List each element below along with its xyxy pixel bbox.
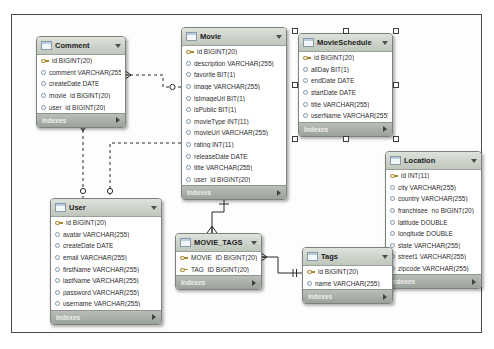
column-row[interactable]: id BIGINT(20) [303,266,392,278]
selection-handle[interactable] [292,136,298,142]
table-header[interactable]: Comment [37,37,125,55]
column-row[interactable]: movieUrl VARCHAR(255) [182,127,286,139]
column-row[interactable]: username VARCHAR(255) [51,298,161,310]
table-header[interactable]: MOVIE_TAGS [176,234,261,252]
column-row[interactable]: firstName VARCHAR(255) [51,263,161,275]
column-row[interactable]: zipcode VARCHAR(255) [386,263,481,275]
expand-arrow-icon[interactable] [277,190,281,196]
column-row[interactable]: longitude DOUBLE [386,228,481,240]
collapse-arrow-icon[interactable] [276,35,282,39]
indexes-section[interactable]: Indexes [386,274,481,288]
selection-handle[interactable] [292,28,298,34]
column-row[interactable]: latitude DOUBLE [386,216,481,228]
selection-handle[interactable] [393,82,399,88]
column-label: name VARCHAR(255) [315,280,380,287]
column-row[interactable]: street1 VARCHAR(255) [386,251,481,263]
column-row[interactable]: userName VARCHAR(255) [299,110,392,122]
table-header[interactable]: User [51,199,161,217]
collapse-arrow-icon[interactable] [382,41,388,45]
column-row[interactable]: isImageUrl BIT(1) [182,92,286,104]
collapse-arrow-icon[interactable] [115,44,121,48]
table-header[interactable]: Location [386,152,481,170]
column-row[interactable]: favorite BIT(1) [182,69,286,81]
selection-handle[interactable] [292,82,298,88]
table-movieschedule[interactable]: MovieScheduleid BIGINT(20)allDay BIT(1)e… [298,33,393,137]
column-label: lastName VARCHAR(255) [63,277,139,284]
table-user[interactable]: Userid BIGINT(20)avatar VARCHAR(255)crea… [50,198,162,325]
expand-arrow-icon[interactable] [152,314,156,320]
collapse-arrow-icon[interactable] [251,241,257,245]
column-label: endDate DATE [311,77,354,84]
indexes-label: Indexes [308,293,332,300]
column-label: title VARCHAR(255) [194,164,252,171]
table-title: Comment [55,41,112,50]
column-icon [390,196,395,201]
column-row[interactable]: description VARCHAR(255) [182,58,286,70]
indexes-section[interactable]: Indexes [37,113,125,127]
selection-handle[interactable] [343,136,349,142]
expand-arrow-icon[interactable] [472,279,476,285]
table-movie[interactable]: Movieid BIGINT(20)description VARCHAR(25… [181,27,287,200]
indexes-section[interactable]: Indexes [176,275,261,289]
table-icon [55,203,66,212]
column-row[interactable]: TAG_ID BIGINT(20) [176,264,261,276]
column-icon [41,105,46,110]
indexes-section[interactable]: Indexes [303,289,392,303]
table-header[interactable]: Tags [303,248,392,266]
column-row[interactable]: createDate DATE [37,78,125,90]
column-row[interactable]: email VARCHAR(255) [51,252,161,264]
column-row[interactable]: franchisee_no BIGINT(20) [386,205,481,217]
column-row[interactable]: id BIGINT(20) [182,46,286,58]
column-row[interactable]: user_id BIGINT(20) [37,101,125,113]
column-row[interactable]: city VARCHAR(255) [386,182,481,194]
indexes-section[interactable]: Indexes [299,122,392,136]
column-row[interactable]: startDate DATE [299,87,392,99]
column-row[interactable]: createDate DATE [51,240,161,252]
column-row[interactable]: movie_id BIGINT(20) [37,90,125,102]
column-row[interactable]: allDay BIT(1) [299,64,392,76]
indexes-section[interactable]: Indexes [51,310,161,324]
column-row[interactable]: id BIGINT(20) [37,55,125,67]
column-row[interactable]: MOVIE_ID BIGINT(20) [176,252,261,264]
expand-arrow-icon[interactable] [383,126,387,132]
selection-handle[interactable] [393,28,399,34]
table-header[interactable]: MovieSchedule [299,34,392,52]
table-movie_tags[interactable]: MOVIE_TAGSMOVIE_ID BIGINT(20)TAG_ID BIGI… [175,233,262,290]
column-row[interactable]: lastName VARCHAR(255) [51,275,161,287]
table-comment[interactable]: Commentid BIGINT(20)comment VARCHAR(255)… [36,36,126,128]
column-row[interactable]: state VARCHAR(255) [386,240,481,252]
column-row[interactable]: endDate DATE [299,75,392,87]
column-icon [55,278,60,283]
expand-arrow-icon[interactable] [383,294,387,300]
column-icon [186,177,191,182]
column-row[interactable]: country VARCHAR(255) [386,193,481,205]
column-label: latitude DOUBLE [398,219,448,226]
column-label: comment VARCHAR(255) [49,69,121,76]
table-tags[interactable]: Tagsid BIGINT(20)name VARCHAR(255)Indexe… [302,247,393,304]
expand-arrow-icon[interactable] [252,280,256,286]
column-row[interactable]: title VARCHAR(255) [182,162,286,174]
column-row[interactable]: user_id BIGINT(20) [182,174,286,186]
column-row[interactable]: comment VARCHAR(255) [37,67,125,79]
column-row[interactable]: name VARCHAR(255) [303,278,392,290]
column-row[interactable]: title VARCHAR(255) [299,98,392,110]
collapse-arrow-icon[interactable] [471,159,477,163]
column-row[interactable]: movieType INT(11) [182,116,286,128]
column-row[interactable]: avatar VARCHAR(255) [51,229,161,241]
table-header[interactable]: Movie [182,28,286,46]
selection-handle[interactable] [393,136,399,142]
expand-arrow-icon[interactable] [116,117,120,123]
column-row[interactable]: releaseDate DATE [182,150,286,162]
column-row[interactable]: rating INT(11) [182,139,286,151]
column-row[interactable]: id INT(11) [386,170,481,182]
column-row[interactable]: password VARCHAR(255) [51,287,161,299]
column-row[interactable]: id BIGINT(20) [299,52,392,64]
indexes-section[interactable]: Indexes [182,185,286,199]
column-row[interactable]: image VARCHAR(255) [182,81,286,93]
table-location[interactable]: Locationid INT(11)city VARCHAR(255)count… [385,151,482,289]
column-row[interactable]: id BIGINT(20) [51,217,161,229]
selection-handle[interactable] [343,28,349,34]
column-row[interactable]: isPublic BIT(1) [182,104,286,116]
collapse-arrow-icon[interactable] [151,206,157,210]
collapse-arrow-icon[interactable] [382,255,388,259]
